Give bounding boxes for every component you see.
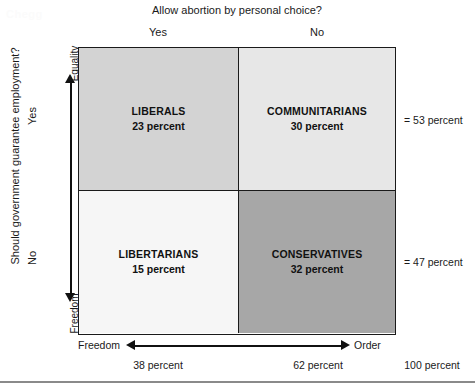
column-axis-title: Allow abortion by personal choice? [78, 4, 396, 16]
row-head-no: No [26, 238, 38, 278]
quadrant-value: 15 percent [132, 262, 185, 277]
quadrant-label: COMMUNITARIANS [267, 104, 367, 119]
quadrant-label: CONSERVATIVES [272, 247, 363, 262]
quadrant-liberals[interactable]: LIBERALS 23 percent [79, 48, 239, 191]
chart-canvas: Chegg Allow abortion by personal choice?… [0, 0, 475, 390]
column-total-no: 62 percent [268, 359, 368, 371]
row-total-bottom: = 47 percent [404, 256, 463, 268]
quadrant-conservatives[interactable]: CONSERVATIVES 32 percent [239, 191, 395, 333]
footer-divider [0, 381, 475, 383]
row-axis-title: Should government guarantee employment? [9, 26, 21, 286]
quadrant-value: 32 percent [291, 262, 344, 277]
quadrant-grid: LIBERALS 23 percent COMMUNITARIANS 30 pe… [78, 47, 396, 335]
axis-shaft [70, 81, 72, 295]
quadrant-libertarians[interactable]: LIBERTARIANS 15 percent [79, 191, 239, 333]
grand-total: 100 percent [390, 359, 474, 371]
arrow-right-icon [341, 340, 350, 350]
quadrant-value: 23 percent [132, 119, 185, 134]
quadrant-label: LIBERTARIANS [119, 247, 199, 262]
row-total-top: = 53 percent [404, 114, 463, 126]
horizontal-axis-pole-right: Order [354, 339, 381, 351]
horizontal-axis-arrow-icon [126, 339, 350, 352]
quadrant-value: 30 percent [291, 119, 344, 134]
quadrant-communitarians[interactable]: COMMUNITARIANS 30 percent [239, 48, 395, 191]
watermark: Chegg [6, 8, 43, 20]
quadrant-label: LIBERALS [131, 104, 185, 119]
vertical-axis-arrow-icon [64, 74, 77, 302]
column-total-yes: 38 percent [108, 359, 208, 371]
axis-shaft [133, 345, 343, 347]
column-head-no: No [238, 26, 396, 38]
row-head-yes: Yes [26, 96, 38, 136]
column-head-yes: Yes [78, 26, 238, 38]
horizontal-axis-pole-left: Freedom [78, 339, 120, 351]
